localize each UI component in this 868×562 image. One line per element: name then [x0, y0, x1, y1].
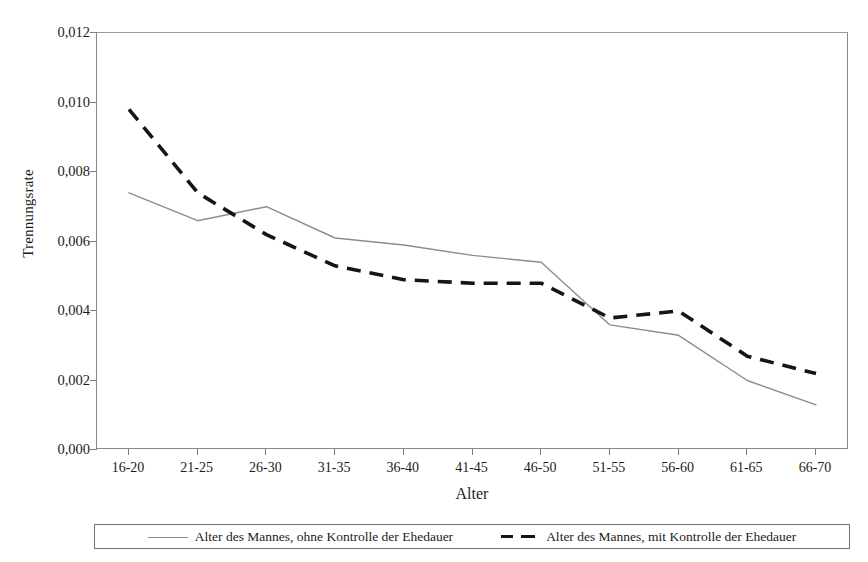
x-tick-mark	[403, 449, 404, 455]
y-tick-mark	[90, 241, 97, 242]
x-tick-label: 46-50	[505, 460, 575, 476]
series-line-ohne-kontrolle	[129, 193, 816, 405]
legend-label-mit-kontrolle: Alter des Mannes, mit Kontrolle der Ehed…	[546, 529, 796, 545]
x-tick-mark	[746, 449, 747, 455]
x-axis-title: Alter	[96, 485, 848, 503]
y-tick-mark	[90, 449, 97, 450]
x-tick-label: 26-30	[230, 460, 300, 476]
x-tick-mark	[197, 449, 198, 455]
plot-lines	[97, 33, 849, 450]
x-tick-label: 31-35	[299, 460, 369, 476]
x-tick-mark	[472, 449, 473, 455]
x-tick-mark	[678, 449, 679, 455]
x-tick-label: 16-20	[93, 460, 163, 476]
y-tick-label: 0,004	[44, 302, 90, 319]
chart-figure: Trennungsrate 0,0000,0020,0040,0060,0080…	[0, 0, 868, 562]
x-tick-label: 21-25	[162, 460, 232, 476]
y-tick-mark	[90, 380, 97, 381]
x-tick-label: 66-70	[780, 460, 850, 476]
x-tick-mark	[265, 449, 266, 455]
x-tick-mark	[540, 449, 541, 455]
x-tick-mark	[334, 449, 335, 455]
legend-item-mit-kontrolle: Alter des Mannes, mit Kontrolle der Ehed…	[499, 529, 796, 545]
chart-legend: Alter des Mannes, ohne Kontrolle der Ehe…	[94, 524, 850, 549]
y-tick-mark	[90, 171, 97, 172]
dashed-line-swatch-icon	[499, 532, 539, 542]
y-tick-mark	[90, 32, 97, 33]
y-axis-title: Trennungsrate	[20, 124, 37, 304]
y-tick-mark	[90, 102, 97, 103]
y-tick-label: 0,008	[44, 163, 90, 180]
x-tick-label: 61-65	[711, 460, 781, 476]
y-tick-label: 0,010	[44, 93, 90, 110]
x-tick-label: 41-45	[437, 460, 507, 476]
y-tick-label: 0,012	[44, 24, 90, 41]
plot-area	[96, 32, 848, 449]
series-line-mit-kontrolle	[129, 109, 816, 373]
legend-item-ohne-kontrolle: Alter des Mannes, ohne Kontrolle der Ehe…	[148, 529, 453, 545]
legend-label-ohne-kontrolle: Alter des Mannes, ohne Kontrolle der Ehe…	[195, 529, 453, 545]
y-tick-mark	[90, 310, 97, 311]
y-tick-label: 0,000	[44, 441, 90, 458]
x-tick-label: 36-40	[368, 460, 438, 476]
x-tick-mark	[815, 449, 816, 455]
x-tick-label: 56-60	[643, 460, 713, 476]
y-axis-tick-labels: 0,0000,0020,0040,0060,0080,0100,012	[42, 0, 90, 562]
x-tick-mark	[128, 449, 129, 455]
y-tick-label: 0,002	[44, 371, 90, 388]
x-tick-label: 51-55	[574, 460, 644, 476]
solid-line-swatch-icon	[148, 532, 188, 542]
y-tick-label: 0,006	[44, 232, 90, 249]
x-tick-mark	[609, 449, 610, 455]
